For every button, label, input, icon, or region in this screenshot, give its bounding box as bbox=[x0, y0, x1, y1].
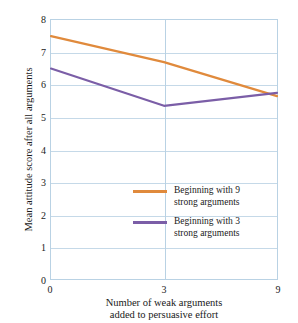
y-axis-tick-label: 0 bbox=[16, 275, 46, 286]
x-axis-title-line-1: Number of weak arguments bbox=[50, 297, 278, 309]
y-axis-tick-label: 3 bbox=[16, 177, 46, 188]
legend-swatch-series-2 bbox=[133, 221, 167, 224]
y-axis-tick-label: 4 bbox=[16, 144, 46, 155]
y-axis-tick-label: 7 bbox=[16, 46, 46, 57]
y-axis-tick-label: 8 bbox=[16, 14, 46, 25]
legend: Beginning with 9 strong arguments Beginn… bbox=[133, 185, 240, 247]
series-line-1 bbox=[51, 36, 277, 96]
y-axis-tick-label: 6 bbox=[16, 79, 46, 90]
x-axis-tick-label: 0 bbox=[48, 284, 53, 295]
legend-swatch-series-1 bbox=[133, 190, 167, 193]
legend-label-series-2: Beginning with 3 strong arguments bbox=[174, 216, 240, 239]
x-axis-tick-label: 3 bbox=[162, 284, 167, 295]
series-line-2 bbox=[51, 69, 277, 106]
legend-label-series-1: Beginning with 9 strong arguments bbox=[174, 185, 240, 208]
x-axis-title-line-2: added to persuasive effort bbox=[50, 309, 278, 321]
y-axis-tick-label: 5 bbox=[16, 111, 46, 122]
y-axis-tick-label: 2 bbox=[16, 209, 46, 220]
x-axis-tick-label: 9 bbox=[276, 284, 281, 295]
chart-figure: Mean attitude score after all arguments … bbox=[0, 0, 298, 323]
x-axis-title: Number of weak arguments added to persua… bbox=[50, 297, 278, 321]
plot-area: Beginning with 9 strong arguments Beginn… bbox=[50, 19, 278, 280]
y-axis-tick-label: 1 bbox=[16, 242, 46, 253]
legend-item: Beginning with 3 strong arguments bbox=[133, 216, 240, 239]
legend-item: Beginning with 9 strong arguments bbox=[133, 185, 240, 208]
